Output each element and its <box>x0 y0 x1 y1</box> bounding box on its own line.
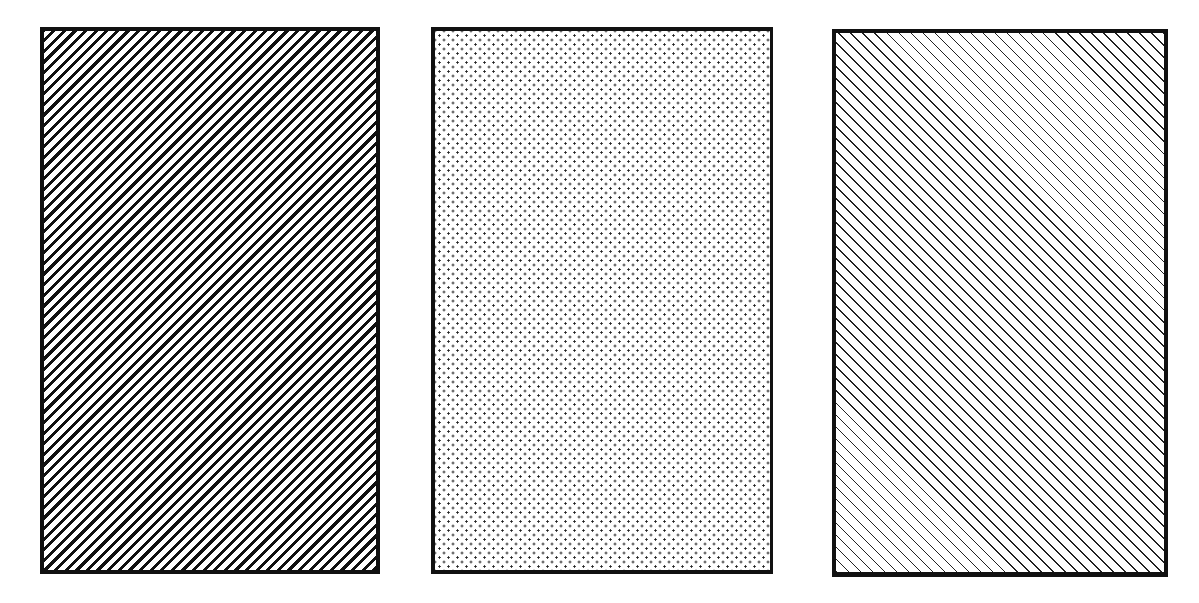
thick-hatch-panel <box>40 27 380 574</box>
thin-hatch-panel <box>832 29 1168 577</box>
dotted-pattern-panel <box>431 27 773 574</box>
